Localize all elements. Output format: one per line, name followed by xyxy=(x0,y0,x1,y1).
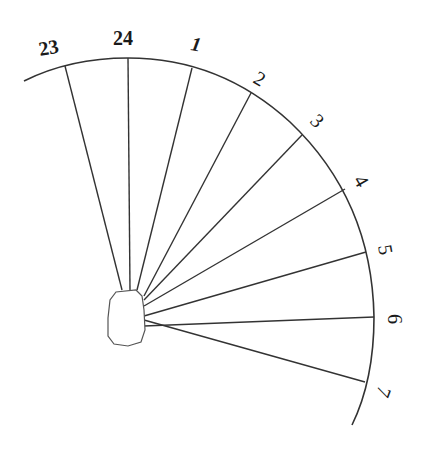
radial-line-24 xyxy=(128,58,130,290)
radial-line-4 xyxy=(144,189,345,306)
radial-line-23 xyxy=(65,66,122,290)
hour-label-7: 7 xyxy=(372,384,396,401)
hour-label-2: 2 xyxy=(250,66,270,90)
hour-label-24: 24 xyxy=(113,27,133,49)
radial-line-5 xyxy=(144,252,366,316)
origin-rock xyxy=(108,290,145,346)
hour-label-5: 5 xyxy=(374,243,397,257)
hour-fan-diagram: 23241234567 xyxy=(0,0,429,455)
hour-label-1: 1 xyxy=(189,32,203,55)
hour-label-23: 23 xyxy=(37,35,61,60)
radial-line-3 xyxy=(144,135,302,300)
hour-label-4: 4 xyxy=(350,171,374,191)
radial-line-6 xyxy=(144,317,374,326)
hour-label-6: 6 xyxy=(384,314,406,324)
hour-labels: 23241234567 xyxy=(37,27,406,401)
radial-line-7 xyxy=(144,320,365,382)
hour-label-3: 3 xyxy=(306,109,329,132)
